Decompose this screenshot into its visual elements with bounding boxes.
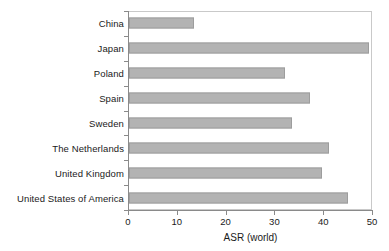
x-axis-tick-label-10: 10 [172,216,183,227]
x-axis-tick [128,211,129,215]
category-label-spain: Spain [99,93,124,104]
bar-united-states-of-america [129,192,348,203]
x-axis-tick-label-40: 40 [318,216,329,227]
bar-row: Sweden [0,111,389,136]
x-axis-tick [177,211,178,215]
x-axis-tick-label-20: 20 [220,216,231,227]
x-axis-tick-label-50: 50 [367,216,378,227]
category-label-sweden: Sweden [89,117,124,128]
bar-row: China [0,11,389,36]
x-axis-tick-label-30: 30 [269,216,280,227]
bar-row: United States of America [0,185,389,210]
bar-rows: ChinaJapanPolandSpainSwedenThe Netherlan… [0,11,389,210]
category-label-united-states-of-america: United States of America [17,192,124,203]
bar-row: Poland [0,61,389,86]
bar-spain [129,93,310,104]
x-axis-tick [323,211,324,215]
bar-row: Spain [0,86,389,111]
category-label-china: China [99,18,124,29]
bar-row: The Netherlands [0,135,389,160]
bar-china [129,18,194,29]
category-label-united-kingdom: United Kingdom [55,167,124,178]
x-axis-tick [226,211,227,215]
bar-sweden [129,117,292,128]
x-axis-title: ASR (world) [128,232,373,243]
bar-row: United Kingdom [0,160,389,185]
x-axis-tick [274,211,275,215]
bar-japan [129,43,369,54]
x-axis-line [128,210,373,211]
x-axis-tick-label-0: 0 [125,216,130,227]
bar-poland [129,68,285,79]
x-axis-tick [372,211,373,215]
bar-the-netherlands [129,142,329,153]
bar-row: Japan [0,36,389,61]
chart-container: ChinaJapanPolandSpainSwedenThe Netherlan… [0,0,389,251]
bar-united-kingdom [129,167,322,178]
category-label-japan: Japan [98,43,124,54]
category-label-the-netherlands: The Netherlands [52,142,124,153]
category-label-poland: Poland [94,68,124,79]
